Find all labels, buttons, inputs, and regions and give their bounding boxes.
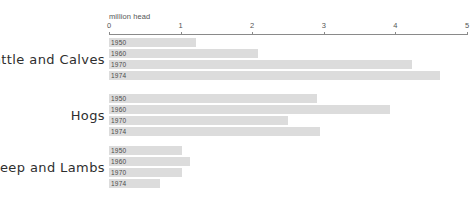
axis-tick-mark bbox=[324, 32, 325, 35]
axis-tick-label: 3 bbox=[322, 21, 326, 30]
group-label: Cattle and Calves bbox=[0, 52, 105, 67]
bar[interactable] bbox=[109, 49, 258, 58]
bar-year-label: 1974 bbox=[111, 179, 126, 188]
axis-tick-label: 0 bbox=[107, 21, 111, 30]
bar[interactable] bbox=[109, 116, 288, 125]
bar-year-label: 1950 bbox=[111, 146, 126, 155]
bar-year-label: 1960 bbox=[111, 105, 126, 114]
axis-tick-mark bbox=[395, 32, 396, 35]
chart-axis: million head 012345 bbox=[0, 0, 471, 36]
bar-year-label: 1974 bbox=[111, 127, 126, 136]
bar-year-label: 1974 bbox=[111, 71, 126, 80]
axis-tick-mark bbox=[467, 32, 468, 35]
bar-row[interactable]: 1974 bbox=[109, 71, 440, 80]
axis-tick-mark bbox=[252, 32, 253, 35]
bar-row[interactable]: 1970 bbox=[109, 116, 288, 125]
bar-year-label: 1950 bbox=[111, 94, 126, 103]
bar-row[interactable]: 1960 bbox=[109, 49, 258, 58]
bar[interactable] bbox=[109, 94, 317, 103]
axis-line bbox=[109, 34, 467, 35]
axis-tick-label: 2 bbox=[250, 21, 254, 30]
bar-year-label: 1960 bbox=[111, 157, 126, 166]
axis-unit-label: million head bbox=[109, 12, 150, 21]
bar-year-label: 1970 bbox=[111, 116, 126, 125]
bar-group: Cattle and Calves1950196019701974 bbox=[0, 38, 471, 80]
bar-year-label: 1960 bbox=[111, 49, 126, 58]
axis-tick-label: 1 bbox=[179, 21, 183, 30]
bar-row[interactable]: 1970 bbox=[109, 60, 412, 69]
bar-row[interactable]: 1950 bbox=[109, 94, 317, 103]
bar[interactable] bbox=[109, 105, 390, 114]
bar-row[interactable]: 1960 bbox=[109, 105, 390, 114]
bar-row[interactable]: 1974 bbox=[109, 127, 320, 136]
bar[interactable] bbox=[109, 71, 440, 80]
bar-group: Hogs1950196019701974 bbox=[0, 94, 471, 136]
bar[interactable] bbox=[109, 127, 320, 136]
bar-chart: million head 012345 Cattle and Calves195… bbox=[0, 0, 471, 197]
bar-year-label: 1970 bbox=[111, 168, 126, 177]
axis-tick-mark bbox=[109, 32, 110, 35]
axis-tick-label: 5 bbox=[465, 21, 469, 30]
bar-row[interactable]: 1960 bbox=[109, 157, 190, 166]
bar-row[interactable]: 1974 bbox=[109, 179, 160, 188]
group-label: Sheep and Lambs bbox=[0, 160, 105, 175]
axis-tick-mark bbox=[181, 32, 182, 35]
bar-row[interactable]: 1970 bbox=[109, 168, 182, 177]
group-label: Hogs bbox=[71, 108, 105, 123]
bar[interactable] bbox=[109, 60, 412, 69]
bar-year-label: 1970 bbox=[111, 60, 126, 69]
bar-row[interactable]: 1950 bbox=[109, 146, 182, 155]
bar-group: Sheep and Lambs1950196019701974 bbox=[0, 146, 471, 188]
bar-year-label: 1950 bbox=[111, 38, 126, 47]
axis-tick-label: 4 bbox=[393, 21, 397, 30]
bar-row[interactable]: 1950 bbox=[109, 38, 196, 47]
